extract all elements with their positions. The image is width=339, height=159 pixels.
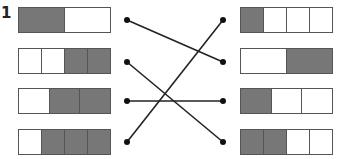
right-dot-3[interactable] xyxy=(220,98,226,104)
left-dot-1[interactable] xyxy=(124,17,130,23)
connection-line-1 xyxy=(127,20,223,62)
right-dot-4[interactable] xyxy=(220,139,226,145)
left-dot-4[interactable] xyxy=(124,139,130,145)
left-dot-2[interactable] xyxy=(124,59,130,65)
left-dot-3[interactable] xyxy=(124,98,130,104)
matching-lines xyxy=(0,0,339,159)
connection-line-4 xyxy=(127,20,223,142)
right-dot-1[interactable] xyxy=(220,17,226,23)
connection-line-2 xyxy=(127,62,223,142)
right-dot-2[interactable] xyxy=(220,59,226,65)
